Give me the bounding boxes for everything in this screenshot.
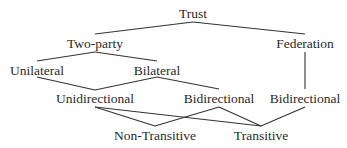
node-bidirectional-bilateral: Bidirectional (184, 92, 254, 106)
edge-bidirectional_1-to-non_transitive (155, 107, 219, 126)
node-two-party: Two-party (67, 37, 123, 51)
node-non-transitive: Non-Transitive (114, 129, 196, 143)
edge-unilateral-to-unidirectional (37, 77, 95, 90)
edge-unidirectional-to-non_transitive (95, 107, 155, 126)
edge-bidirectional_2-to-transitive (261, 107, 305, 126)
node-unilateral: Unilateral (10, 64, 64, 78)
node-transitive: Transitive (234, 129, 288, 143)
edge-bilateral-to-unidirectional (95, 77, 157, 90)
node-trust: Trust (179, 7, 207, 21)
edge-trust-to-federation (193, 22, 305, 34)
edge-two_party-to-unilateral (37, 52, 95, 61)
edge-trust-to-two_party (95, 22, 193, 34)
node-unidirectional: Unidirectional (56, 92, 134, 106)
trust-taxonomy-diagram: Trust Two-party Federation Unilateral Bi… (0, 0, 347, 148)
edge-unidirectional-to-transitive (95, 107, 261, 126)
edge-two_party-to-bilateral (95, 52, 157, 61)
node-bilateral: Bilateral (134, 64, 180, 78)
edge-bilateral-to-bidirectional_1 (157, 77, 219, 89)
node-federation: Federation (276, 37, 334, 51)
node-bidirectional-federation: Bidirectional (270, 92, 340, 106)
